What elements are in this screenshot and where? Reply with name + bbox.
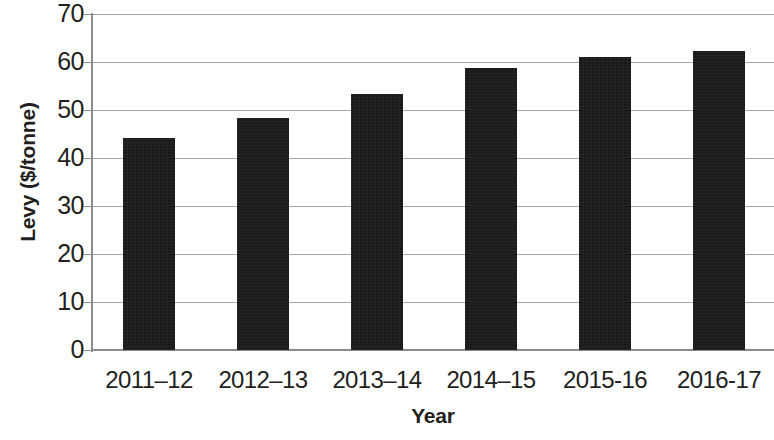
- gridline: [92, 158, 774, 159]
- gridline: [92, 254, 774, 255]
- y-axis-tick-label: 10: [32, 289, 84, 314]
- bar: [579, 57, 631, 350]
- bar: [351, 94, 403, 350]
- x-axis-tick-label: 2014–15: [426, 366, 556, 394]
- bar: [123, 138, 175, 350]
- plot-area: [92, 14, 774, 350]
- y-axis-tick-label: 60: [32, 49, 84, 74]
- y-axis-tick-label: 0: [32, 337, 84, 362]
- bar: [693, 51, 745, 350]
- x-axis-tick-label: 2012–13: [198, 366, 328, 394]
- y-axis-tick-mark: [83, 62, 93, 63]
- y-axis-tick-mark: [83, 254, 93, 255]
- x-axis-tick-label: 2016-17: [654, 366, 774, 394]
- y-axis-tick-mark: [83, 206, 93, 207]
- y-axis-tick-label: 70: [32, 1, 84, 26]
- bar: [465, 68, 517, 350]
- x-axis-tick-label: 2015-16: [540, 366, 670, 394]
- y-axis-tick-label: 20: [32, 241, 84, 266]
- gridline: [92, 62, 774, 63]
- gridline: [92, 302, 774, 303]
- y-axis-tick-mark: [83, 158, 93, 159]
- x-axis-baseline: [92, 349, 774, 351]
- y-axis-tick-mark: [83, 14, 93, 15]
- gridline: [92, 14, 774, 15]
- y-axis-tick-label: 50: [32, 97, 84, 122]
- y-axis-tick-label: 40: [32, 145, 84, 170]
- x-axis-title: Year: [92, 404, 774, 428]
- bar: [237, 118, 289, 350]
- y-axis-tick-mark: [83, 110, 93, 111]
- gridline: [92, 110, 774, 111]
- x-axis-tick-label: 2013–14: [312, 366, 442, 394]
- gridline: [92, 206, 774, 207]
- bar-chart: Levy ($/tonne) 010203040506070 2011–1220…: [0, 0, 774, 440]
- y-axis-tick-labels: 010203040506070: [32, 0, 84, 440]
- x-axis-tick-label: 2011–12: [84, 366, 214, 394]
- y-axis-tick-label: 30: [32, 193, 84, 218]
- y-axis-tick-mark: [83, 302, 93, 303]
- y-axis-tick-mark: [83, 350, 93, 351]
- x-axis-tick-labels: 2011–122012–132013–142014–152015-162016-…: [92, 366, 774, 398]
